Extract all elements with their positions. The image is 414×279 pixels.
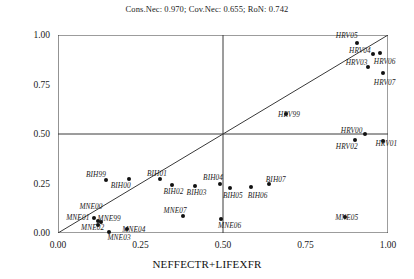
point-label-mne06: MNE06	[218, 221, 241, 230]
x-axis-title: NEFFECTR+LIFEXFR	[0, 258, 414, 270]
data-point-bih99	[104, 178, 108, 182]
point-label-mne00: MNE00	[79, 202, 102, 211]
point-label-hrv06: HRV06	[374, 56, 396, 65]
point-label-bih99: BIH99	[86, 169, 106, 178]
fit-statistics-title: Cons.Nec: 0.970; Cov.Nec: 0.655; RoN: 0.…	[0, 4, 414, 14]
data-point-bih00	[127, 177, 131, 181]
point-label-mne03: MNE03	[107, 232, 130, 241]
point-label-hrv00: HRV00	[341, 126, 363, 135]
point-label-bih02: BIH02	[164, 187, 184, 196]
y-tick-label-1: 0.25	[18, 179, 50, 189]
point-label-hrv07: HRV07	[374, 77, 396, 86]
point-label-hrv04: HRV04	[349, 45, 371, 54]
point-label-hrv05: HRV05	[336, 31, 358, 40]
x-tick-label-2: 0.50	[215, 240, 232, 250]
point-label-bih00: BIH00	[111, 181, 131, 190]
x-tick-label-0: 0.00	[50, 240, 67, 250]
point-label-bih01: BIH01	[147, 168, 167, 177]
data-point-hrv04	[371, 52, 375, 56]
data-point-bih01	[158, 177, 162, 181]
point-label-mne04: MNE04	[122, 225, 145, 234]
y-tick-label-3: 0.75	[18, 80, 50, 90]
y-tick-label-0: 0.00	[18, 228, 50, 238]
chart-canvas: Cons.Nec: 0.970; Cov.Nec: 0.655; RoN: 0.…	[0, 0, 414, 279]
x-tick-label-3: 0.75	[297, 240, 314, 250]
point-label-mne01: MNE01	[66, 213, 89, 222]
y-tick-label-2: 0.50	[18, 129, 50, 139]
data-point-hrv00	[363, 132, 367, 136]
point-label-hrv02: HRV02	[336, 141, 358, 150]
point-label-bih03: BIH03	[187, 188, 207, 197]
point-label-bih05: BIH05	[223, 191, 243, 200]
x-tick-label-4: 1.00	[380, 240, 397, 250]
data-point-bih05	[228, 186, 232, 190]
data-point-hrv06	[378, 51, 382, 55]
point-label-bih06: BIH06	[248, 191, 268, 200]
point-label-bih07: BIH07	[266, 174, 286, 183]
plot-svg	[58, 35, 388, 233]
data-point-bih06	[249, 185, 253, 189]
point-label-hrv03: HRV03	[346, 57, 368, 66]
point-label-hrv01: HRV01	[375, 138, 397, 147]
point-label-mne05: MNE05	[335, 213, 358, 222]
data-point-bih04	[218, 182, 222, 186]
data-point-bih07	[267, 182, 271, 186]
point-label-mne99: MNE99	[98, 214, 121, 223]
data-point-hrv05	[355, 41, 359, 45]
data-point-mne07	[181, 214, 185, 218]
x-tick-label-1: 0.25	[132, 240, 149, 250]
y-tick-label-4: 1.00	[18, 30, 50, 40]
point-label-bih04: BIH04	[203, 172, 223, 181]
point-label-mne07: MNE07	[164, 206, 187, 215]
point-label-mne02: MNE02	[81, 223, 104, 232]
data-point-hrv07	[381, 71, 385, 75]
point-label-hrv99: HRV99	[278, 110, 300, 119]
plot-area	[58, 35, 388, 233]
